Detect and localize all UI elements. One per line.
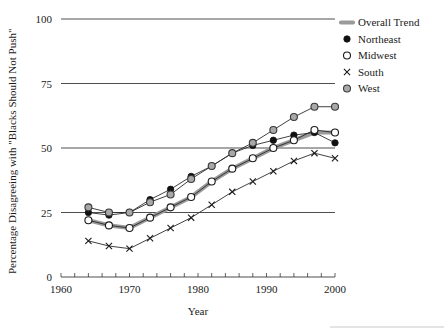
y-tick-label-100: 100 <box>36 13 53 25</box>
data-point-midwest-1973 <box>147 214 154 221</box>
x-axis-title: Year <box>188 305 209 317</box>
x-tick-label-1990: 1990 <box>256 283 279 295</box>
data-point-midwest-1991 <box>270 145 277 152</box>
legend-label-northeast: Northeast <box>358 33 401 45</box>
data-point-midwest-1964 <box>85 217 92 224</box>
data-point-midwest-1976 <box>167 204 174 211</box>
data-point-south-1997 <box>311 150 317 156</box>
data-point-west-1982 <box>208 163 215 170</box>
data-point-south-1985 <box>229 189 235 195</box>
x-tick-label-1980: 1980 <box>187 283 210 295</box>
data-point-west-1994 <box>290 114 297 121</box>
data-point-west-1970 <box>126 209 133 216</box>
data-point-west-1991 <box>270 126 277 133</box>
legend-marker-west <box>344 85 351 92</box>
data-point-west-2000 <box>332 103 339 110</box>
y-tick-label-50: 50 <box>41 142 53 154</box>
y-axis-title-group: Percentage Disagreeing with "Blacks Shou… <box>6 29 18 274</box>
data-point-midwest-1970 <box>126 224 133 231</box>
data-point-west-1976 <box>167 191 174 198</box>
data-point-midwest-1982 <box>208 178 215 185</box>
x-axis-minor-ticks <box>61 273 335 277</box>
markers-midwest <box>85 126 339 231</box>
y-tick-label-25: 25 <box>41 207 53 219</box>
legend-label-overall-trend: Overall Trend <box>358 16 420 28</box>
data-point-midwest-1994 <box>290 137 297 144</box>
x-axis-tick-labels: 1960 1970 1980 1990 2000 <box>50 283 347 295</box>
data-point-midwest-1997 <box>311 126 318 133</box>
legend-label-west: West <box>358 82 380 94</box>
data-point-northeast-2000 <box>332 140 338 146</box>
chart-legend: Overall TrendNortheastMidwestSouthWest <box>341 16 420 94</box>
x-tick-label-2000: 2000 <box>324 283 347 295</box>
y-axis-tick-labels: 100 75 50 25 0 <box>36 13 53 283</box>
data-point-west-1988 <box>249 139 256 146</box>
data-point-south-1988 <box>250 178 256 184</box>
data-point-south-2000 <box>332 155 338 161</box>
legend-marker-northeast <box>344 36 350 42</box>
x-tick-label-1960: 1960 <box>50 283 73 295</box>
x-tick-label-1970: 1970 <box>119 283 142 295</box>
y-axis-title: Percentage Disagreeing with "Blacks Shou… <box>6 29 18 274</box>
legend-marker-south <box>344 69 350 75</box>
series-line-northeast <box>88 133 335 216</box>
data-point-south-1964 <box>85 238 91 244</box>
legend-item-overall-trend[interactable]: Overall Trend <box>341 16 420 28</box>
data-point-northeast-1991 <box>270 137 276 143</box>
legend-item-northeast[interactable]: Northeast <box>344 33 401 45</box>
data-point-south-1982 <box>209 202 215 208</box>
data-point-west-1973 <box>147 199 154 206</box>
data-point-south-1994 <box>291 158 297 164</box>
data-point-midwest-1985 <box>229 165 236 172</box>
y-tick-label-0: 0 <box>47 271 53 283</box>
data-point-west-1967 <box>105 209 112 216</box>
legend-item-south[interactable]: South <box>344 66 384 78</box>
legend-label-midwest: Midwest <box>358 49 397 61</box>
markers-west <box>85 103 339 216</box>
data-point-south-1976 <box>168 225 174 231</box>
data-point-midwest-1979 <box>188 194 195 201</box>
line-chart-svg: 100 75 50 25 0 Percentage Disagreeing wi… <box>0 0 444 333</box>
data-point-south-1991 <box>270 168 276 174</box>
data-point-midwest-1988 <box>249 155 256 162</box>
legend-item-west[interactable]: West <box>344 82 380 94</box>
legend-marker-midwest <box>344 52 351 59</box>
chart-container: 100 75 50 25 0 Percentage Disagreeing wi… <box>0 0 444 333</box>
legend-label-south: South <box>358 66 384 78</box>
data-point-midwest-2000 <box>332 129 339 136</box>
data-point-west-1997 <box>311 103 318 110</box>
data-point-south-1973 <box>147 235 153 241</box>
y-tick-label-75: 75 <box>41 78 53 90</box>
data-point-south-1979 <box>188 215 194 221</box>
data-point-west-1964 <box>85 204 92 211</box>
legend-item-midwest[interactable]: Midwest <box>344 49 397 61</box>
data-point-midwest-1967 <box>105 222 112 229</box>
series-markers <box>85 103 339 252</box>
data-point-west-1985 <box>229 150 236 157</box>
data-point-west-1979 <box>188 175 195 182</box>
